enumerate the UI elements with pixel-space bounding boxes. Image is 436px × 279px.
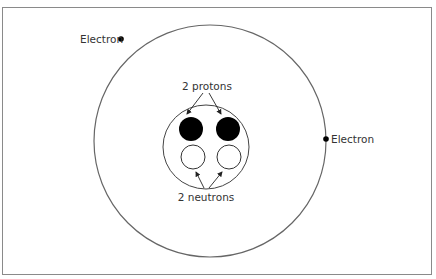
electron-label-left: Electron bbox=[80, 33, 123, 45]
neutrons-label: 2 neutrons bbox=[178, 191, 235, 203]
neutron bbox=[217, 145, 241, 169]
neutron bbox=[181, 145, 205, 169]
atom-diagram: Electron Electron 2 protons 2 neutrons bbox=[0, 0, 436, 279]
proton bbox=[179, 117, 203, 141]
protons-label: 2 protons bbox=[182, 80, 232, 92]
electron-label-right: Electron bbox=[331, 133, 374, 145]
electron-dot bbox=[323, 136, 329, 142]
proton bbox=[216, 117, 240, 141]
